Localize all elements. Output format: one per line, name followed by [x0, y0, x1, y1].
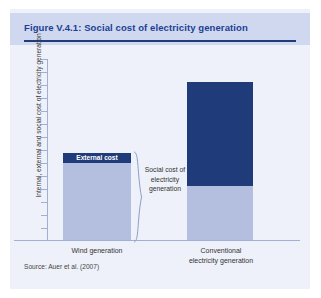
- y-axis-tick: [41, 228, 47, 229]
- x-axis-label-line: electricity generation: [175, 256, 267, 266]
- bar-conventional-external-cost: [187, 82, 253, 186]
- y-axis-line: [47, 59, 48, 241]
- source-note: Source: Auer et al. (2007): [24, 263, 99, 270]
- bar-wind-generation-external-cost: External cost: [63, 153, 131, 163]
- x-axis-label-wind-generation: Wind generation: [53, 246, 141, 256]
- x-axis-line: [14, 240, 300, 241]
- x-axis-label-conventional: Conventional electricity generation: [175, 246, 267, 265]
- external-cost-label: External cost: [63, 153, 131, 163]
- x-axis-label-line: Conventional: [175, 246, 267, 256]
- y-axis-tick: [41, 215, 47, 216]
- bar-wind-generation-internal-cost: [63, 153, 131, 240]
- social-cost-annotation: Social cost of electricity generation: [141, 165, 189, 194]
- page-title: Figure V.4.1: Social cost of electricity…: [24, 22, 248, 33]
- figure-title-band: Figure V.4.1: Social cost of electricity…: [10, 13, 310, 45]
- x-axis-label-line: Wind generation: [53, 246, 141, 256]
- figure-panel: Figure V.4.1: Social cost of electricity…: [10, 9, 310, 289]
- y-axis-label: Internal, external and social cost of el…: [34, 26, 43, 206]
- bar-conventional-internal-cost: [187, 186, 253, 240]
- title-underline-rule: [24, 40, 296, 42]
- chart-plot-area: Internal, external and social cost of el…: [10, 49, 310, 254]
